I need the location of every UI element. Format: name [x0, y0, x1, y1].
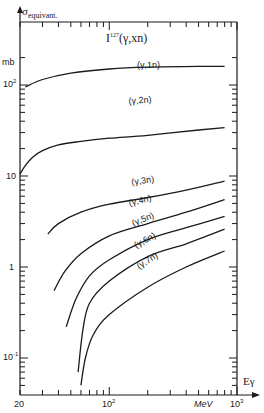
y-tick-label-0.1: 10-1 — [3, 351, 18, 362]
curve-1n — [25, 66, 224, 87]
x-tick-label-100: 102 — [102, 398, 115, 409]
y-tick-label-10: 10 — [6, 172, 16, 181]
y-axis-unit: mb — [2, 58, 15, 67]
x-tick-label-1000: 103 — [230, 398, 243, 409]
y-axis-title: σequivant. — [22, 6, 57, 17]
curve-2n — [20, 128, 225, 175]
y-tick-label-1: 1 — [9, 263, 14, 272]
x-axis-unit: MeV — [194, 400, 213, 409]
chart-title: I127(γ,xn) — [106, 32, 147, 44]
curve-7n — [81, 251, 225, 385]
x-axis-arrow-icon — [252, 392, 260, 398]
curve-label-2n: (γ,2n) — [128, 95, 152, 106]
curve-label-1n: (γ,1n) — [137, 61, 160, 70]
y-tick-label-100: 102 — [3, 78, 16, 89]
curves — [20, 66, 225, 385]
x-axis-title: Eγ — [243, 376, 255, 387]
x-tick-label-20: 20 — [14, 400, 24, 409]
